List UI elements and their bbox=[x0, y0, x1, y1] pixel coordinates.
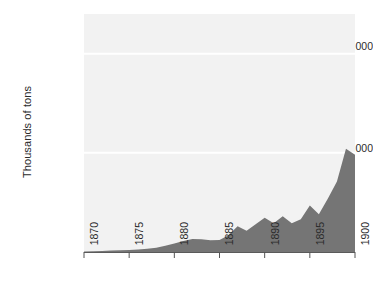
x-axis-tick-label-1900: 1900 bbox=[359, 222, 371, 262]
x-axis-tick-label-1880: 1880 bbox=[178, 222, 190, 262]
x-axis-tick-label-1875: 1875 bbox=[133, 222, 145, 262]
x-axis-tick-label-1885: 1885 bbox=[223, 222, 235, 262]
chart-figure: Thousands of tons 20,000 10,000 1870 187… bbox=[0, 0, 373, 302]
x-axis-tick-label-1895: 1895 bbox=[314, 222, 326, 262]
x-axis-tick-label-1890: 1890 bbox=[269, 222, 281, 262]
x-axis-tick-label-1870: 1870 bbox=[88, 222, 100, 262]
